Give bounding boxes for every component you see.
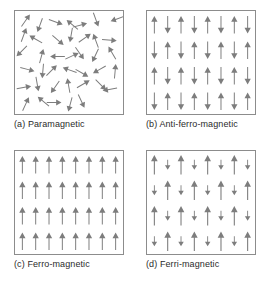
spin-arrow — [152, 236, 157, 246]
spin-arrow — [33, 181, 39, 199]
spin-arrow — [20, 96, 32, 112]
spin-arrow — [16, 83, 32, 92]
spin-arrow — [64, 50, 80, 62]
spin-arrow — [75, 78, 91, 91]
spin-arrow — [165, 16, 171, 34]
spin-arrow — [50, 53, 65, 59]
spin-arrow — [46, 207, 52, 225]
spin-arrow — [178, 92, 184, 110]
spin-arrow — [112, 207, 118, 225]
panel-caption-d: (d) Ferri-magnetic — [146, 258, 258, 270]
lattice-box-antiferromagnetic — [146, 10, 256, 115]
spin-arrow — [178, 236, 183, 246]
spin-arrow — [110, 13, 123, 24]
spin-arrow — [164, 231, 171, 251]
panel-ferromagnetic: (c) Ferro-magnetic — [14, 150, 126, 276]
spin-arrow — [65, 97, 75, 113]
spin-arrow — [231, 206, 238, 226]
spin-arrow — [192, 160, 197, 170]
arrow-field-unequal — [147, 151, 255, 254]
spin-arrow — [91, 12, 102, 28]
spin-arrow — [218, 41, 224, 59]
lattice-box-ferromagnetic — [14, 150, 124, 255]
spin-arrow — [151, 67, 157, 85]
spin-arrow — [218, 160, 223, 170]
spin-arrow — [112, 232, 118, 250]
spin-arrow — [106, 45, 119, 61]
spin-arrow — [218, 16, 224, 34]
spin-arrow — [151, 92, 157, 110]
spin-arrow — [165, 160, 170, 170]
spin-arrow — [244, 16, 250, 34]
spin-arrow — [205, 67, 211, 85]
spin-arrow — [151, 41, 157, 59]
spin-arrow — [244, 41, 250, 59]
spin-arrow — [231, 155, 238, 175]
spin-arrow — [191, 231, 198, 251]
spin-arrow — [72, 20, 88, 30]
spin-arrow — [165, 41, 171, 59]
spin-arrow — [67, 27, 76, 43]
spin-arrow — [75, 93, 87, 109]
panel-paramagnetic: (a) Paramagnetic — [14, 10, 126, 136]
spin-arrow — [191, 67, 197, 85]
spin-arrow — [178, 41, 184, 59]
spin-arrow — [231, 16, 237, 34]
spin-arrow — [59, 232, 65, 250]
spin-arrow — [165, 211, 170, 221]
spin-arrow — [218, 180, 225, 200]
panel-antiferromagnetic: (b) Anti-ferro-magnetic — [146, 10, 258, 136]
spin-arrow — [89, 47, 101, 63]
spin-arrow — [64, 78, 73, 94]
spin-arrow — [245, 160, 250, 170]
spin-arrow — [205, 92, 211, 110]
spin-arrow — [178, 185, 183, 195]
spin-arrow — [244, 180, 251, 200]
spin-arrow — [178, 155, 185, 175]
arrow-field-aligned — [15, 151, 123, 254]
spin-arrow — [205, 16, 211, 34]
spin-arrow — [33, 76, 42, 92]
spin-arrow — [86, 181, 92, 199]
lattice-box-ferrimagnetic — [146, 150, 256, 255]
spin-arrow — [86, 207, 92, 225]
spin-arrow — [165, 67, 171, 85]
arrow-field-checkerboard — [147, 11, 255, 114]
spin-arrow — [99, 207, 105, 225]
spin-arrow — [218, 67, 224, 85]
spin-arrow — [191, 180, 198, 200]
spin-arrow — [245, 211, 250, 221]
spin-arrow — [102, 36, 117, 43]
spin-arrow — [36, 94, 51, 108]
magnetic-ordering-figure: (a) Paramagnetic (b) Anti-ferro-magnetic… — [0, 0, 274, 281]
arrow-field-random — [15, 11, 123, 114]
spin-arrow — [86, 232, 92, 250]
spin-arrow — [73, 181, 79, 199]
spin-arrow — [19, 156, 25, 174]
spin-arrow — [28, 33, 44, 46]
spin-arrow — [19, 65, 35, 75]
spin-arrow — [218, 211, 223, 221]
spin-arrow — [232, 185, 237, 195]
spin-arrow — [37, 48, 47, 64]
spin-arrow — [99, 181, 105, 199]
spin-arrow — [33, 232, 39, 250]
spin-arrow — [152, 185, 157, 195]
spin-arrow — [164, 180, 171, 200]
spin-arrow — [151, 16, 157, 34]
spin-arrow — [99, 232, 105, 250]
spin-arrow — [178, 67, 184, 85]
spin-arrow — [99, 156, 105, 174]
spin-arrow — [62, 65, 78, 76]
spin-arrow — [231, 41, 237, 59]
spin-arrow — [90, 33, 101, 49]
spin-arrow — [48, 17, 64, 28]
spin-arrow — [86, 156, 92, 174]
spin-arrow — [18, 27, 29, 43]
spin-arrow — [33, 156, 39, 174]
spin-arrow — [191, 41, 197, 59]
spin-arrow — [244, 92, 250, 110]
spin-arrow — [77, 31, 93, 44]
spin-arrow — [73, 207, 79, 225]
spin-arrow — [39, 63, 46, 78]
